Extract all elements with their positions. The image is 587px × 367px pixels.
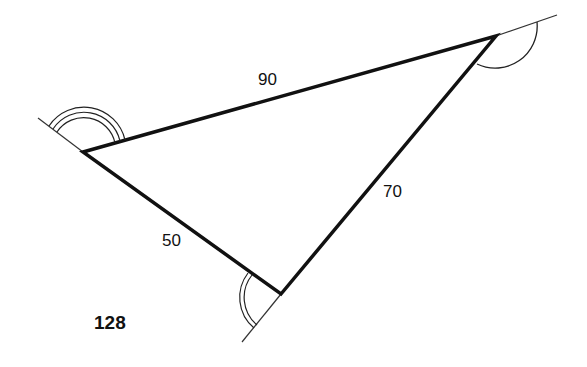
side-label-right: 70 <box>383 182 402 202</box>
triangle-diagram <box>0 0 587 367</box>
angle-arc-bottom <box>240 273 257 328</box>
extension-line-right <box>496 15 557 36</box>
triangle <box>83 36 496 294</box>
angle-arc-left <box>49 107 125 143</box>
extension-line-bottom <box>242 294 281 342</box>
figure-number: 128 <box>94 312 126 334</box>
angle-arc-right <box>477 22 537 68</box>
extension-line-left <box>38 118 83 152</box>
side-label-top: 90 <box>258 70 277 90</box>
side-label-left: 50 <box>162 231 181 251</box>
